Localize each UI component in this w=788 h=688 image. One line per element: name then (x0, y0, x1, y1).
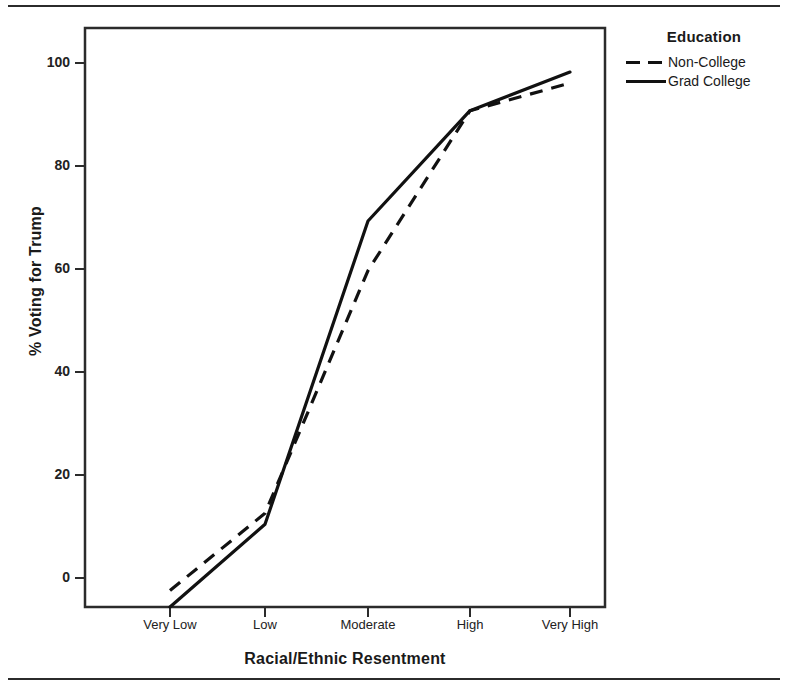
legend-item-grad-college: Grad College (624, 73, 784, 89)
legend-item-label: Non-College (668, 54, 746, 70)
legend-title: Education (624, 28, 784, 45)
y-tick-label: 0 (14, 569, 70, 585)
x-tick-label: Very High (510, 617, 630, 632)
x-axis-title: Racial/Ethnic Resentment (85, 650, 605, 668)
dashed-line-icon (624, 55, 668, 69)
legend-item-label: Grad College (668, 73, 751, 89)
y-tick-label: 100 (14, 54, 70, 70)
plot-frame (85, 28, 605, 607)
y-axis-title: % Voting for Trump (27, 171, 45, 391)
y-axis-ticks (75, 63, 85, 578)
chart-figure: 100 80 60 40 20 0 Very Low Low Moderate … (0, 0, 788, 688)
y-tick-label: 20 (14, 466, 70, 482)
legend: Education Non-College Grad College (624, 28, 784, 92)
x-axis-ticks (170, 607, 570, 617)
legend-item-non-college: Non-College (624, 54, 784, 70)
x-tick-label: Low (205, 617, 325, 632)
plot-area (0, 0, 788, 688)
series-line-grad-college (170, 72, 570, 607)
series-line-non-college (170, 83, 570, 590)
solid-line-icon (624, 74, 668, 88)
